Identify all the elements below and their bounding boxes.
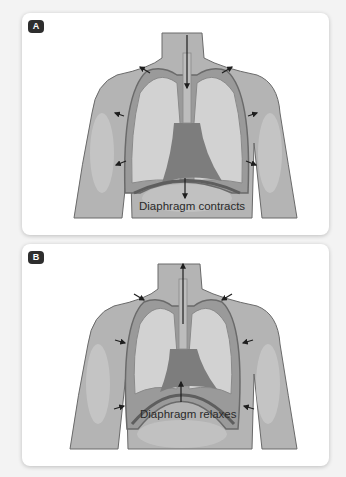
panel-a-inhalation: A Diaphragm contracts: [22, 13, 329, 235]
panel-a-caption: Diaphragm contracts: [139, 200, 245, 212]
panel-b-exhalation: B Diaphragm relaxes: [22, 244, 329, 466]
panel-a-badge: A: [28, 20, 44, 33]
panel-b-badge: B: [28, 251, 44, 264]
panel-b-caption: Diaphragm relaxes: [140, 408, 237, 420]
torso-diagram-exhalation: [22, 244, 329, 466]
